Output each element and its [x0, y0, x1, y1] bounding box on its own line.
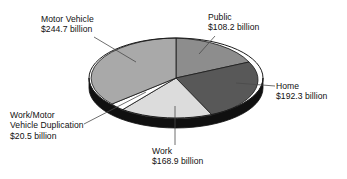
slice-label-public-name: Public — [208, 12, 259, 22]
slice-label-home-value: $192.3 billion — [276, 91, 327, 101]
slice-label-motor-vehicle-name: Motor Vehicle — [41, 14, 94, 24]
slice-label-work-name: Work — [152, 146, 203, 156]
slice-label-duplication: Work/Motor Vehicle Duplication $20.5 bil… — [10, 110, 84, 141]
slice-label-duplication-value: $20.5 billion — [10, 131, 84, 141]
slice-label-motor-vehicle-value: $244.7 billion — [41, 24, 94, 34]
slice-label-duplication-name-2: Vehicle Duplication — [10, 120, 84, 130]
slice-label-home-name: Home — [276, 81, 327, 91]
slice-label-public: Public $108.2 billion — [208, 12, 259, 33]
slice-label-work-value: $168.9 billion — [152, 156, 203, 166]
slice-label-home: Home $192.3 billion — [276, 81, 327, 102]
pie-chart-figure: Motor Vehicle $244.7 billion Public $108… — [0, 0, 347, 179]
slice-label-duplication-name-1: Work/Motor — [10, 110, 84, 120]
slice-label-work: Work $168.9 billion — [152, 146, 203, 167]
slice-label-motor-vehicle: Motor Vehicle $244.7 billion — [41, 14, 94, 35]
slice-label-public-value: $108.2 billion — [208, 22, 259, 32]
